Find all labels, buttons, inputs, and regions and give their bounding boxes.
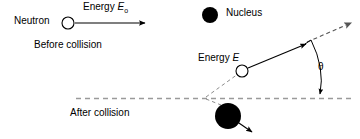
nucleus-label: Nucleus: [226, 8, 262, 18]
neutron-label: Neutron: [14, 16, 50, 26]
final-energy-label: Energy E: [198, 53, 239, 63]
dashed-guide-to-scattered-neutron: [206, 74, 238, 97]
scattering-angle-label: θ: [318, 62, 324, 72]
nucleus-circle-legend: [202, 7, 218, 23]
recoil-nucleus-circle: [215, 103, 241, 129]
scattered-direction-extension-arrow: [307, 23, 351, 42]
dashed-guide-to-recoil-nucleus: [206, 99, 221, 105]
neutron-circle-before: [62, 17, 74, 29]
before-collision-label: Before collision: [34, 40, 102, 50]
recoil-nucleus-arrow: [236, 121, 252, 132]
scattered-neutron-arrow: [248, 44, 306, 68]
diagram-canvas: [0, 0, 360, 139]
final-energy-word: Energy: [198, 52, 230, 63]
initial-energy-subscript: o: [124, 7, 128, 14]
initial-energy-word: Energy: [83, 1, 115, 12]
neutron-circle-after: [236, 65, 248, 77]
scattering-angle-arc-tick: [305, 40, 311, 44]
initial-energy-label: Energy Eo: [83, 2, 128, 14]
after-collision-label: After collision: [70, 108, 129, 118]
final-energy-symbol: E: [232, 52, 239, 63]
neutron-scattering-figure: Neutron Energy Eo Before collision Nucle…: [0, 0, 360, 139]
